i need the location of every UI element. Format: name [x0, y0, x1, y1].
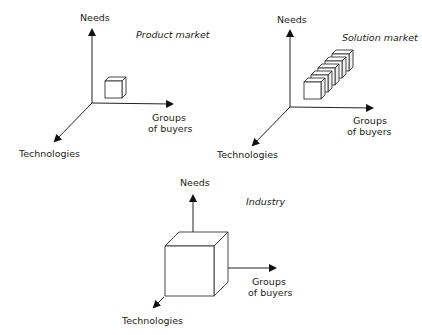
groups-label-line1: Groups	[152, 112, 186, 123]
solution-market-diagram: Needs Solution market Groups of buyers T…	[216, 14, 419, 160]
industry-diagram: Needs Industry Groups of buyers Technolo…	[121, 177, 293, 326]
industry-cube	[165, 232, 228, 296]
technologies-label: Technologies	[18, 148, 80, 159]
groups-of-buyers-axis	[92, 103, 172, 104]
technologies-label: Technologies	[216, 149, 278, 160]
solution-cube-1	[304, 78, 325, 99]
groups-label-line1: Groups	[353, 115, 387, 126]
needs-label: Needs	[180, 177, 210, 188]
groups-label-line1: Groups	[252, 276, 286, 287]
groups-label-line2: of buyers	[148, 123, 193, 134]
needs-label: Needs	[80, 12, 110, 23]
needs-label: Needs	[277, 14, 307, 25]
groups-of-buyers-axis	[290, 107, 372, 108]
groups-label-line2: of buyers	[248, 287, 293, 298]
technologies-axis	[55, 103, 92, 141]
technologies-axis	[253, 107, 290, 145]
diagram-title: Solution market	[342, 32, 419, 43]
technologies-label: Technologies	[121, 315, 183, 326]
groups-label-line2: of buyers	[347, 126, 392, 137]
diagram-title: Product market	[136, 29, 211, 40]
diagram-title: Industry	[246, 196, 285, 207]
market-definition-diagram: Needs Product market Groups of buyers Te…	[0, 0, 422, 335]
product-market-diagram: Needs Product market Groups of buyers Te…	[18, 12, 211, 159]
product-cube	[105, 77, 126, 98]
technologies-axis	[154, 297, 164, 307]
